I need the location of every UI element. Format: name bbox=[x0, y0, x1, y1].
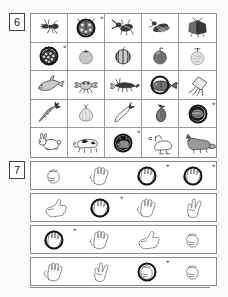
section-6: 6 ※ ※ ※ ※ bbox=[9, 13, 219, 158]
ant-icon bbox=[31, 14, 67, 42]
picture-cell-apple[interactable] bbox=[142, 43, 179, 72]
rabbit-icon bbox=[31, 128, 67, 157]
cabbage-icon bbox=[179, 100, 216, 128]
picture-cell-pig[interactable]: ※ bbox=[105, 128, 142, 157]
hand-cell-hand-thumbs-up[interactable] bbox=[124, 226, 170, 253]
moth-icon bbox=[179, 14, 216, 42]
section-7-number: 7 bbox=[9, 161, 25, 179]
hand-open-palm-icon bbox=[31, 258, 77, 285]
hand-thumbs-up-icon bbox=[124, 226, 170, 253]
hand-thumbs-up-icon bbox=[31, 194, 77, 221]
kome-mark: ※ bbox=[212, 102, 215, 106]
hand-cell-hand-open-palm[interactable]: ※ bbox=[170, 162, 216, 189]
hand-gesture-grid: ※ ※ ※ ※ ※ bbox=[30, 161, 217, 289]
squid-icon bbox=[179, 71, 216, 99]
section-6-number: 6 bbox=[9, 13, 25, 31]
hand-fist-icon bbox=[170, 258, 216, 285]
dolphin-icon bbox=[31, 71, 67, 99]
crab-icon bbox=[68, 71, 104, 99]
picture-cell-cicada[interactable] bbox=[142, 14, 179, 43]
picture-grid: ※ ※ ※ ※ bbox=[30, 13, 217, 158]
hand-cell-hand-peace[interactable] bbox=[77, 258, 123, 285]
hand-fist-icon bbox=[170, 226, 216, 253]
kome-mark: ※ bbox=[100, 16, 103, 20]
picture-cell-duck[interactable] bbox=[142, 128, 179, 157]
picture-cell-squid[interactable] bbox=[179, 71, 216, 100]
apple-icon bbox=[142, 43, 178, 71]
hand-fist-icon bbox=[124, 258, 170, 285]
stag-beetle-icon bbox=[105, 14, 141, 42]
picture-cell-carrot[interactable] bbox=[31, 100, 68, 129]
kome-mark: ※ bbox=[137, 130, 140, 134]
picture-cell-lobster[interactable] bbox=[105, 71, 142, 100]
hand-cell-hand-fist[interactable]: ※ bbox=[124, 258, 170, 285]
kome-mark: ※ bbox=[120, 196, 123, 200]
picture-cell-cow[interactable] bbox=[68, 128, 105, 157]
ladybug-icon bbox=[68, 14, 104, 42]
hand-peace-icon bbox=[77, 258, 123, 285]
hand-cell-hand-open-palm[interactable] bbox=[31, 258, 77, 285]
hand-cell-hand-open-palm[interactable]: ※ bbox=[31, 226, 77, 253]
kome-mark: ※ bbox=[166, 260, 169, 264]
hand-open-palm-icon bbox=[77, 162, 123, 189]
picture-cell-crab[interactable] bbox=[68, 71, 105, 100]
picture-cell-strawberry[interactable]: ※ bbox=[31, 43, 68, 72]
picture-cell-dolphin[interactable] bbox=[31, 71, 68, 100]
watermelon-icon bbox=[105, 43, 141, 71]
worksheet-page: 6 ※ ※ ※ ※ 7 ※ ※ ※ ※ ※ bbox=[0, 0, 228, 297]
picture-cell-watermelon[interactable] bbox=[105, 43, 142, 72]
kome-mark: ※ bbox=[63, 45, 66, 49]
picture-cell-persimmon[interactable] bbox=[68, 43, 105, 72]
onion-icon bbox=[68, 100, 104, 128]
cow-icon bbox=[68, 128, 104, 157]
fish-icon bbox=[142, 71, 178, 99]
picture-cell-stag-beetle[interactable] bbox=[105, 14, 142, 43]
hand-open-palm-icon bbox=[31, 226, 77, 253]
hand-fist-icon bbox=[31, 162, 77, 189]
hand-cell-hand-open-palm[interactable] bbox=[124, 194, 170, 221]
hand-open-palm-icon bbox=[170, 162, 216, 189]
hand-cell-hand-open-palm[interactable] bbox=[77, 226, 123, 253]
daikon-icon bbox=[105, 100, 141, 128]
picture-cell-ant[interactable] bbox=[31, 14, 68, 43]
hand-open-palm-icon bbox=[124, 162, 170, 189]
hand-open-palm-icon bbox=[124, 194, 170, 221]
picture-cell-onion[interactable] bbox=[68, 100, 105, 129]
lobster-icon bbox=[105, 71, 141, 99]
kome-mark: ※ bbox=[73, 228, 76, 232]
persimmon-icon bbox=[68, 43, 104, 71]
hand-open-palm-icon bbox=[77, 226, 123, 253]
hand-cell-hand-open-palm[interactable]: ※ bbox=[77, 194, 123, 221]
hand-cell-hand-open-palm[interactable]: ※ bbox=[124, 162, 170, 189]
section-7: 7 ※ ※ ※ ※ ※ bbox=[9, 161, 219, 289]
picture-cell-fox[interactable] bbox=[179, 128, 216, 157]
picture-cell-rabbit[interactable] bbox=[31, 128, 68, 157]
fox-icon bbox=[179, 128, 216, 157]
hand-row-1: ※ ※ bbox=[30, 161, 217, 190]
cicada-icon bbox=[142, 14, 178, 42]
picture-cell-fish[interactable] bbox=[142, 71, 179, 100]
strawberry-icon bbox=[31, 43, 67, 71]
hand-cell-hand-fist[interactable] bbox=[31, 162, 77, 189]
duck-icon bbox=[142, 128, 178, 157]
hand-peace-icon bbox=[170, 194, 216, 221]
hand-open-palm-icon bbox=[77, 194, 123, 221]
picture-cell-daikon[interactable] bbox=[105, 100, 142, 129]
picture-cell-melon[interactable] bbox=[179, 43, 216, 72]
picture-cell-moth[interactable] bbox=[179, 14, 216, 43]
hand-cell-hand-peace[interactable] bbox=[170, 194, 216, 221]
hand-row-2: ※ bbox=[30, 193, 217, 222]
carrot-icon bbox=[31, 100, 67, 128]
picture-cell-cabbage[interactable]: ※ bbox=[179, 100, 216, 129]
picture-cell-ladybug[interactable]: ※ bbox=[68, 14, 105, 43]
hand-cell-hand-fist[interactable] bbox=[170, 258, 216, 285]
kome-mark: ※ bbox=[166, 164, 169, 168]
kome-mark: ※ bbox=[212, 164, 215, 168]
bottom-rule bbox=[30, 287, 210, 288]
hand-cell-hand-open-palm[interactable] bbox=[77, 162, 123, 189]
picture-cell-eggplant[interactable] bbox=[142, 100, 179, 129]
hand-row-3: ※ bbox=[30, 225, 217, 254]
hand-cell-hand-thumbs-up[interactable] bbox=[31, 194, 77, 221]
hand-cell-hand-fist[interactable] bbox=[170, 226, 216, 253]
melon-icon bbox=[179, 43, 216, 71]
